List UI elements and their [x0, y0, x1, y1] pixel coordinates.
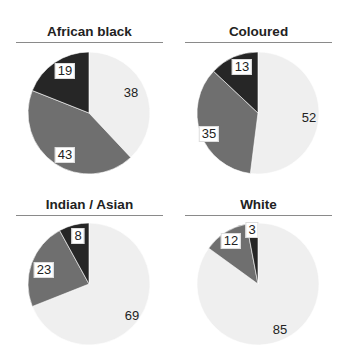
slice-label: 85 [273, 323, 287, 337]
slice-label: 35 [199, 126, 219, 142]
slice-label: 52 [302, 111, 316, 125]
slice-label: 69 [125, 309, 139, 323]
slice-label: 12 [221, 233, 241, 249]
slice-label: 38 [124, 86, 138, 100]
slice-label: 19 [55, 63, 75, 79]
pie-charts [0, 0, 351, 360]
slice-label: 8 [71, 228, 84, 244]
slice-label: 3 [245, 222, 258, 238]
slice-label: 13 [232, 59, 252, 75]
slice-label: 23 [34, 262, 54, 278]
slice-label: 43 [55, 147, 75, 163]
